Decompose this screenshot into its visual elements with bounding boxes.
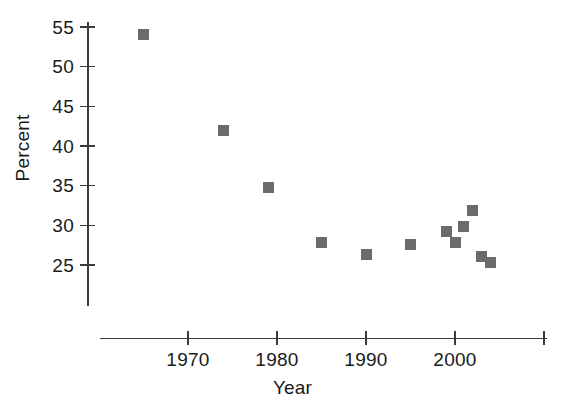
data-point — [361, 249, 372, 260]
data-point — [441, 226, 452, 237]
data-point — [138, 29, 149, 40]
data-point — [467, 205, 478, 216]
data-point — [316, 237, 327, 248]
data-point — [218, 125, 229, 136]
scatter-chart: 25303540455055 1970198019902000 Percent … — [0, 0, 585, 416]
plot-area — [0, 0, 585, 416]
data-point — [263, 182, 274, 193]
x-axis-title: Year — [0, 378, 585, 398]
data-point — [405, 239, 416, 250]
data-point — [458, 221, 469, 232]
y-axis-title: Percent — [13, 88, 33, 208]
data-point — [485, 257, 496, 268]
data-point — [450, 237, 461, 248]
